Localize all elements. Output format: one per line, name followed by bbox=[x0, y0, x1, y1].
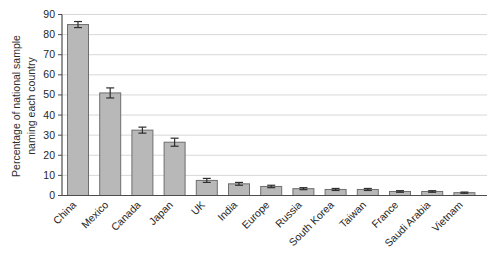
y-tick-label-30: 30 bbox=[43, 129, 55, 141]
y-tick-label-50: 50 bbox=[43, 88, 55, 100]
x-label-russia: Russia bbox=[273, 198, 304, 229]
y-tick-label-40: 40 bbox=[43, 109, 55, 121]
bar-mexico bbox=[100, 93, 121, 196]
y-tick-label-80: 80 bbox=[43, 28, 55, 40]
y-tick-label-70: 70 bbox=[43, 48, 55, 60]
y-tick-label-20: 20 bbox=[43, 149, 55, 161]
y-tick-label-0: 0 bbox=[49, 189, 55, 201]
x-label-vietnam: Vietnam bbox=[429, 198, 465, 234]
bar-chart-figure: Percentage of national sample naming eac… bbox=[0, 0, 494, 257]
bar-canada bbox=[132, 130, 153, 195]
y-tick-label-60: 60 bbox=[43, 68, 55, 80]
x-label-france: France bbox=[369, 198, 401, 230]
x-label-europe: Europe bbox=[239, 198, 272, 231]
x-label-taiwan: Taiwan bbox=[337, 198, 369, 230]
plot-area: 0102030405060708090ChinaMexicoCanadaJapa… bbox=[0, 0, 494, 257]
bar-china bbox=[68, 25, 89, 196]
x-label-india: India bbox=[215, 198, 240, 223]
x-label-china: China bbox=[51, 198, 79, 226]
x-label-japan: Japan bbox=[146, 198, 175, 227]
y-tick-label-10: 10 bbox=[43, 169, 55, 181]
x-label-uk: UK bbox=[188, 198, 207, 217]
x-label-canada: Canada bbox=[108, 198, 143, 233]
x-label-mexico: Mexico bbox=[79, 198, 111, 230]
y-tick-label-90: 90 bbox=[43, 8, 55, 20]
bar-japan bbox=[164, 142, 185, 195]
